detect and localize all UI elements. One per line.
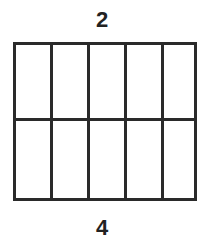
fraction-grid [13,42,197,201]
column-divider [161,45,164,198]
row-divider [16,118,194,121]
bottom-number-label: 4 [0,217,204,239]
column-divider [50,45,53,198]
column-divider [87,45,90,198]
column-divider [124,45,127,198]
top-number-label: 2 [0,9,204,31]
